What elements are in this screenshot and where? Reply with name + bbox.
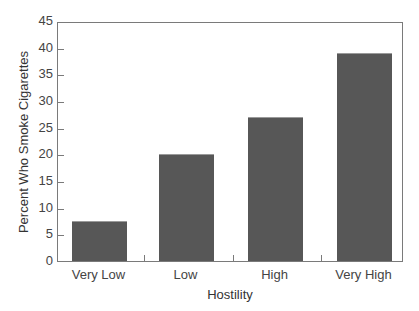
y-tick-label: 25 — [23, 121, 53, 135]
y-tick — [58, 235, 64, 236]
x-axis-title: Hostility — [180, 287, 280, 302]
y-tick — [58, 155, 64, 156]
x-tick-label: Very High — [314, 267, 414, 282]
y-tick — [58, 102, 64, 103]
y-tick-label: 30 — [23, 94, 53, 108]
y-tick — [58, 49, 64, 50]
x-tick-label: High — [225, 267, 325, 282]
y-tick-label: 10 — [23, 201, 53, 215]
bar-chart: Percent Who Smoke Cigarettes 05101520253… — [0, 0, 419, 311]
plot-area — [57, 22, 403, 262]
y-tick-label: 5 — [23, 227, 53, 241]
y-tick-label: 15 — [23, 174, 53, 188]
y-tick-label: 0 — [23, 254, 53, 268]
bar-high — [248, 117, 303, 261]
x-tick — [233, 255, 234, 261]
y-tick — [58, 209, 64, 210]
y-tick — [58, 182, 64, 183]
x-tick-label: Very Low — [49, 267, 149, 282]
bar-low — [159, 154, 214, 261]
y-tick-label: 45 — [23, 14, 53, 28]
y-tick-label: 40 — [23, 41, 53, 55]
y-tick-label: 20 — [23, 147, 53, 161]
y-tick-label: 35 — [23, 67, 53, 81]
x-tick-label: Low — [136, 267, 236, 282]
x-tick — [144, 255, 145, 261]
y-tick — [58, 75, 64, 76]
y-axis-title: Percent Who Smoke Cigarettes — [16, 22, 31, 262]
bar-very-low — [72, 221, 127, 261]
y-tick — [58, 129, 64, 130]
x-tick — [321, 255, 322, 261]
bar-very-high — [337, 53, 392, 261]
